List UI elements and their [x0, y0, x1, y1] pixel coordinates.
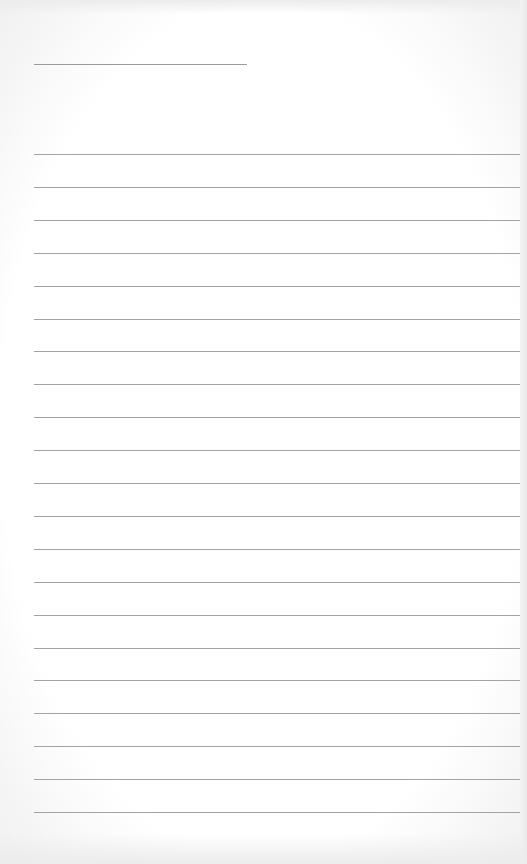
ruled-line [34, 582, 520, 583]
ruled-line [34, 154, 520, 155]
ruled-line [34, 384, 520, 385]
ruled-line [34, 319, 520, 320]
ruled-line [34, 812, 520, 813]
ruled-line [34, 615, 520, 616]
ruled-line [34, 680, 520, 681]
header-name-line [34, 64, 247, 65]
ruled-line [34, 351, 520, 352]
ruled-line [34, 516, 520, 517]
ruled-line [34, 417, 520, 418]
ruled-line [34, 483, 520, 484]
ruled-line [34, 713, 520, 714]
paper-bottom-shadow [0, 834, 527, 864]
paper-top-shadow [0, 0, 527, 14]
paper-right-edge [520, 0, 527, 864]
ruled-line [34, 779, 520, 780]
ruled-line [34, 648, 520, 649]
ruled-line [34, 220, 520, 221]
ruled-line [34, 187, 520, 188]
ruled-line [34, 450, 520, 451]
ruled-line [34, 253, 520, 254]
ruled-line [34, 746, 520, 747]
ruled-line [34, 549, 520, 550]
lined-paper-sheet [0, 0, 527, 864]
ruled-line [34, 286, 520, 287]
